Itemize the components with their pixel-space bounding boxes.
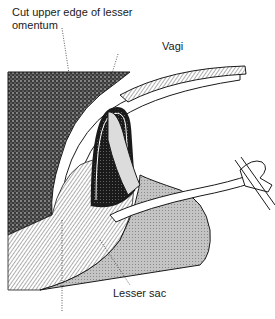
label-vagi: Vagi [162, 40, 183, 53]
label-lesser-sac: Lesser sac [113, 287, 166, 300]
sling-loop [240, 161, 272, 192]
label-cut-upper-edge: Cut upper edge of lesser omentum [12, 6, 142, 32]
label-bottom-truncated [0, 312, 100, 319]
anatomy-illustration [0, 0, 275, 319]
